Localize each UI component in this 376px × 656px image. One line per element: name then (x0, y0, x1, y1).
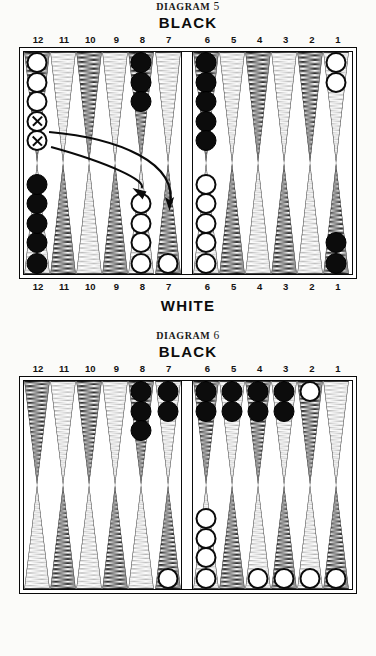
checker-white-marked[interactable] (27, 111, 48, 132)
checker-white[interactable] (131, 213, 152, 234)
checker-black[interactable] (27, 253, 48, 274)
point-7[interactable] (155, 52, 181, 163)
checker-black[interactable] (195, 111, 216, 132)
checker-black[interactable] (247, 381, 268, 402)
checker-black[interactable] (195, 52, 216, 73)
checker-black[interactable] (131, 52, 152, 73)
checker-white[interactable] (157, 568, 178, 589)
point-8[interactable] (128, 52, 154, 163)
point-11[interactable] (50, 381, 76, 485)
checker-white[interactable] (195, 213, 216, 234)
checker-black[interactable] (221, 381, 242, 402)
point-12[interactable] (24, 381, 50, 485)
checker-black[interactable] (131, 91, 152, 112)
point-9[interactable] (102, 485, 128, 589)
point-1[interactable] (323, 381, 349, 485)
checker-white[interactable] (247, 568, 268, 589)
board-bar[interactable] (181, 52, 193, 274)
checker-white[interactable] (131, 253, 152, 274)
checker-white[interactable] (326, 568, 347, 589)
checker-black[interactable] (131, 401, 152, 422)
checker-black[interactable] (195, 91, 216, 112)
point-3[interactable] (271, 52, 297, 163)
point-5[interactable] (219, 163, 245, 274)
point-4[interactable] (245, 381, 271, 485)
checker-black[interactable] (27, 232, 48, 253)
checker-black[interactable] (195, 381, 216, 402)
checker-white[interactable] (27, 72, 48, 93)
point-5[interactable] (219, 52, 245, 163)
checker-white[interactable] (131, 232, 152, 253)
point-12[interactable] (24, 485, 50, 589)
point-12[interactable] (24, 52, 50, 163)
point-4[interactable] (245, 52, 271, 163)
point-11[interactable] (50, 485, 76, 589)
checker-white[interactable] (195, 174, 216, 195)
point-11[interactable] (50, 163, 76, 274)
point-2[interactable] (297, 163, 323, 274)
checker-white-marked[interactable] (27, 130, 48, 151)
point-1[interactable] (323, 52, 349, 163)
point-1[interactable] (323, 163, 349, 274)
point-2[interactable] (297, 485, 323, 589)
checker-black[interactable] (195, 401, 216, 422)
checker-white[interactable] (195, 508, 216, 529)
point-9[interactable] (102, 381, 128, 485)
point-6[interactable] (193, 163, 219, 274)
checker-white[interactable] (27, 52, 48, 73)
point-6[interactable] (193, 485, 219, 589)
checker-black[interactable] (27, 213, 48, 234)
point-10[interactable] (76, 52, 102, 163)
checker-black[interactable] (131, 381, 152, 402)
checker-white[interactable] (157, 253, 178, 274)
checker-white[interactable] (27, 91, 48, 112)
point-10[interactable] (76, 485, 102, 589)
point-6[interactable] (193, 52, 219, 163)
point-9[interactable] (102, 52, 128, 163)
point-4[interactable] (245, 163, 271, 274)
checker-black[interactable] (221, 401, 242, 422)
checker-white[interactable] (326, 52, 347, 73)
checker-black[interactable] (131, 420, 152, 441)
checker-black[interactable] (157, 381, 178, 402)
checker-black[interactable] (27, 174, 48, 195)
checker-black[interactable] (247, 401, 268, 422)
point-5[interactable] (219, 381, 245, 485)
point-1[interactable] (323, 485, 349, 589)
point-8[interactable] (128, 163, 154, 274)
checker-black[interactable] (195, 130, 216, 151)
point-8[interactable] (128, 485, 154, 589)
checker-white[interactable] (300, 568, 321, 589)
checker-black[interactable] (195, 72, 216, 93)
point-10[interactable] (76, 163, 102, 274)
point-7[interactable] (155, 485, 181, 589)
point-3[interactable] (271, 163, 297, 274)
checker-white[interactable] (195, 232, 216, 253)
checker-black[interactable] (273, 401, 294, 422)
checker-white[interactable] (131, 193, 152, 214)
point-6[interactable] (193, 381, 219, 485)
point-3[interactable] (271, 485, 297, 589)
point-5[interactable] (219, 485, 245, 589)
checker-white[interactable] (300, 381, 321, 402)
checker-white[interactable] (195, 193, 216, 214)
checker-black[interactable] (326, 232, 347, 253)
checker-white[interactable] (326, 72, 347, 93)
checker-white[interactable] (273, 568, 294, 589)
point-9[interactable] (102, 163, 128, 274)
checker-white[interactable] (195, 528, 216, 549)
point-2[interactable] (297, 381, 323, 485)
checker-black[interactable] (131, 72, 152, 93)
checker-white[interactable] (195, 547, 216, 568)
point-12[interactable] (24, 163, 50, 274)
point-8[interactable] (128, 381, 154, 485)
checker-black[interactable] (157, 401, 178, 422)
checker-black[interactable] (326, 253, 347, 274)
point-10[interactable] (76, 381, 102, 485)
point-3[interactable] (271, 381, 297, 485)
board-bar[interactable] (181, 381, 193, 589)
point-7[interactable] (155, 381, 181, 485)
checker-black[interactable] (27, 193, 48, 214)
point-4[interactable] (245, 485, 271, 589)
point-2[interactable] (297, 52, 323, 163)
